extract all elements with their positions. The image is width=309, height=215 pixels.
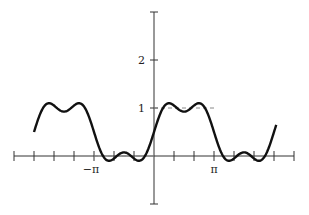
x-label-pi: π: [210, 163, 217, 176]
curve-series: [34, 103, 276, 161]
fourier-plot: 2 1 −π π: [0, 0, 309, 215]
x-label-neg-pi: −π: [83, 163, 99, 176]
y-label-2: 2: [138, 54, 145, 67]
y-label-1: 1: [138, 102, 145, 115]
